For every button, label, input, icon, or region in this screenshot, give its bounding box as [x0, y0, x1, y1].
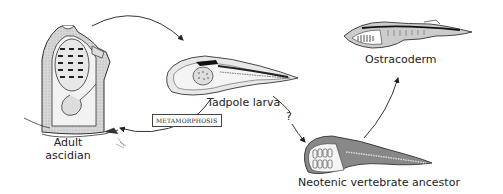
metamorphosis-label: METAMORPHOSIS — [152, 114, 222, 127]
arrow-adult-to-tadpole — [92, 16, 183, 40]
tadpole-larva-illustration — [167, 56, 298, 95]
adult-ascidian-label: Adult ascidian — [38, 137, 98, 162]
tadpole-larva-label: Tadpole larva — [207, 97, 280, 110]
adult-ascidian-illustration — [24, 26, 126, 148]
ostracoderm-label: Ostracoderm — [365, 54, 437, 67]
adult-ascidian-label-line2: ascidian — [38, 150, 98, 163]
neotenic-ancestor-label: Neotenic vertebrate ancestor — [298, 177, 460, 190]
adult-ascidian-label-line1: Adult — [38, 137, 98, 150]
arrow-neotenic-to-ostracoderm — [364, 78, 398, 138]
ostracoderm-illustration — [344, 20, 472, 48]
question-mark-label: ? — [286, 110, 292, 123]
neotenic-ancestor-illustration — [304, 136, 432, 174]
